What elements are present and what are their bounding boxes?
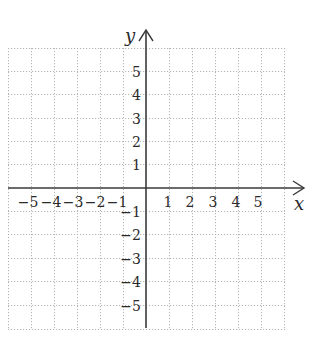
y-axis-label: y — [124, 25, 136, 46]
y-tick-label: −1 — [120, 204, 141, 220]
x-tick-label: 4 — [232, 194, 241, 210]
x-axis-label: x — [294, 193, 304, 214]
y-tick-label: 4 — [132, 87, 141, 103]
x-tick-label: −4 — [41, 194, 62, 210]
y-axis — [139, 30, 153, 328]
x-tick-label: −5 — [18, 194, 39, 210]
y-tick-label: 3 — [132, 111, 141, 127]
x-tick-label: 1 — [164, 194, 173, 210]
y-tick-label: −4 — [120, 274, 141, 290]
x-axis — [8, 181, 304, 195]
y-tick-label: −3 — [120, 251, 141, 267]
x-tick-label: 3 — [209, 194, 218, 210]
x-tick-label: −2 — [85, 194, 106, 210]
x-tick-label: 5 — [254, 194, 263, 210]
y-tick-label: 5 — [132, 64, 141, 80]
x-tick-label: −3 — [63, 194, 84, 210]
y-tick-label: 2 — [132, 134, 141, 150]
y-tick-label: 1 — [132, 157, 141, 173]
y-tick-label: −2 — [120, 227, 141, 243]
coordinate-plane: y x −5 −4 −3 −2 −1 1 2 3 4 5 5 4 3 2 1 −… — [0, 0, 309, 342]
y-tick-label: −5 — [120, 298, 141, 314]
x-tick-label: 2 — [186, 194, 195, 210]
